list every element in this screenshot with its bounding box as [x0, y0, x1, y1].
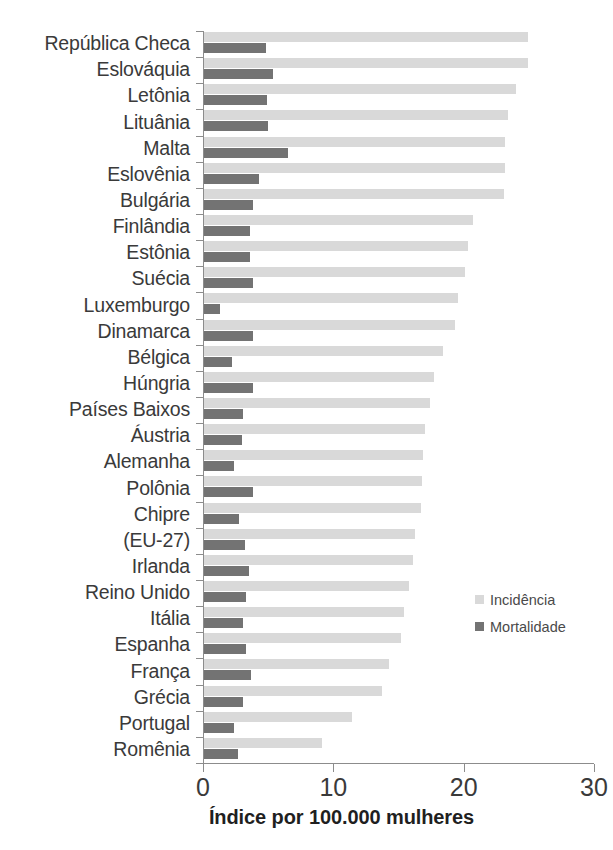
bar-incidencia	[203, 58, 528, 68]
y-axis-tick	[196, 240, 203, 241]
legend-item: Mortalidade	[475, 613, 566, 640]
bar-mortalidade	[203, 566, 249, 576]
bar-incidencia	[203, 633, 401, 643]
bar-group	[203, 83, 594, 109]
bar-incidencia	[203, 450, 423, 460]
bar-incidencia	[203, 607, 404, 617]
bar-incidencia	[203, 241, 468, 251]
bar-group	[203, 266, 594, 292]
chart-legend: IncidênciaMortalidade	[475, 586, 566, 640]
y-axis-label: Dinamarca	[98, 321, 190, 341]
bar-group	[203, 371, 594, 397]
bar-mortalidade	[203, 174, 259, 184]
bar-incidencia	[203, 659, 389, 669]
y-axis-tick	[196, 136, 203, 137]
bar-incidencia	[203, 84, 516, 94]
bar-group	[203, 449, 594, 475]
y-axis-label: Polônia	[126, 478, 190, 498]
bar-mortalidade	[203, 644, 246, 654]
y-axis-tick	[196, 319, 203, 320]
bar-mortalidade	[203, 487, 253, 497]
bar-group	[203, 423, 594, 449]
bar-incidencia	[203, 476, 422, 486]
bar-group	[203, 188, 594, 214]
bar-group	[203, 240, 594, 266]
x-axis-tick-label: 0	[173, 773, 233, 802]
bar-group	[203, 292, 594, 318]
y-axis-label: (EU-27)	[123, 530, 190, 550]
y-axis-tick	[196, 658, 203, 659]
bar-incidencia	[203, 555, 413, 565]
x-axis-tick	[203, 764, 204, 772]
bar-incidencia	[203, 267, 465, 277]
bar-group	[203, 162, 594, 188]
bar-mortalidade	[203, 435, 242, 445]
bar-mortalidade	[203, 43, 266, 53]
bar-incidencia	[203, 189, 504, 199]
bar-incidencia	[203, 372, 434, 382]
x-axis-tick	[594, 764, 595, 772]
y-axis-tick	[196, 580, 203, 581]
y-axis-tick	[196, 83, 203, 84]
bar-mortalidade	[203, 383, 253, 393]
bar-mortalidade	[203, 749, 238, 759]
bar-group	[203, 711, 594, 737]
bar-group	[203, 502, 594, 528]
bar-incidencia	[203, 320, 455, 330]
y-axis-tick	[196, 632, 203, 633]
bar-incidencia	[203, 110, 508, 120]
y-axis-label: Alemanha	[104, 451, 190, 471]
bar-mortalidade	[203, 461, 234, 471]
y-axis-label: França	[131, 661, 191, 681]
bar-mortalidade	[203, 121, 268, 131]
y-axis-label: Irlanda	[132, 556, 190, 576]
bar-group	[203, 319, 594, 345]
x-axis-tick-label: 20	[434, 773, 494, 802]
bar-mortalidade	[203, 670, 251, 680]
bar-mortalidade	[203, 514, 239, 524]
bar-group	[203, 658, 594, 684]
y-axis-tick	[196, 528, 203, 529]
bar-mortalidade	[203, 409, 243, 419]
y-axis-label: Chipre	[134, 504, 190, 524]
y-axis-tick	[196, 397, 203, 398]
y-axis-category-labels: República ChecaEslováquiaLetôniaLituânia…	[0, 31, 196, 763]
y-axis-label: Portugal	[119, 713, 190, 733]
bar-incidencia	[203, 398, 430, 408]
y-axis-label: Lituânia	[123, 112, 190, 132]
y-axis-label: Malta	[143, 138, 190, 158]
y-axis-tick	[196, 449, 203, 450]
bar-incidencia	[203, 686, 382, 696]
bar-mortalidade	[203, 618, 243, 628]
bar-mortalidade	[203, 69, 273, 79]
bar-incidencia	[203, 32, 528, 42]
y-axis-label: Itália	[150, 608, 190, 628]
bar-group	[203, 136, 594, 162]
y-axis-label: Bélgica	[127, 347, 190, 367]
y-axis-tick	[196, 475, 203, 476]
y-axis-label: Bulgária	[120, 190, 190, 210]
bar-group	[203, 737, 594, 763]
bar-mortalidade	[203, 697, 243, 707]
y-axis-label: Letônia	[127, 85, 190, 105]
y-axis-tick	[196, 711, 203, 712]
bar-incidencia	[203, 346, 443, 356]
y-axis-label: Húngria	[123, 373, 190, 393]
bar-group	[203, 528, 594, 554]
y-axis-label: Áustria	[131, 425, 190, 445]
x-axis-line	[203, 763, 594, 764]
bar-incidencia	[203, 163, 505, 173]
legend-label: Mortalidade	[490, 619, 566, 635]
bar-group	[203, 109, 594, 135]
bar-incidencia	[203, 529, 415, 539]
legend-item: Incidência	[475, 586, 566, 613]
bar-mortalidade	[203, 278, 253, 288]
legend-swatch-icon	[475, 595, 484, 604]
bar-incidencia	[203, 503, 421, 513]
y-axis-label: Estônia	[126, 242, 190, 262]
y-axis-label: República Checa	[44, 33, 190, 53]
bar-incidencia	[203, 293, 458, 303]
x-axis-title: Índice por 100.000 mulheres	[0, 806, 613, 829]
y-axis-tick	[196, 371, 203, 372]
legend-label: Incidência	[490, 592, 555, 608]
